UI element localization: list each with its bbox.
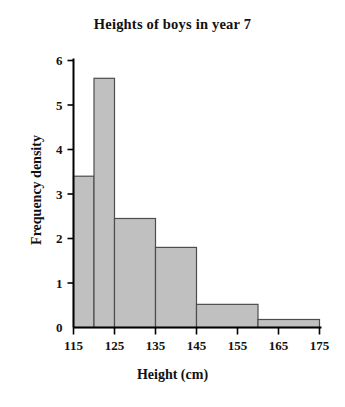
histogram-bar [197,304,259,327]
x-tick-label: 145 [187,338,207,353]
histogram-bar [115,218,156,327]
y-tick-label: 3 [56,187,63,202]
histogram-figure: Heights of boys in year 7 Frequency dens… [0,0,345,407]
x-tick-label: 135 [146,338,166,353]
histogram-bar [74,176,95,327]
x-tick-label: 175 [310,338,330,353]
histogram-bar [94,78,115,327]
y-tick-label: 4 [56,142,63,157]
x-ticks-group: 115125135145155165175 [64,328,330,353]
y-tick-label: 5 [56,98,63,113]
y-tick-label: 0 [56,320,63,335]
plot-area: 0123456 115125135145155165175 [0,0,345,407]
y-tick-label: 6 [56,53,63,68]
x-tick-label: 115 [64,338,83,353]
histogram-bar [258,319,320,327]
histogram-bar [156,247,197,327]
x-tick-label: 165 [269,338,289,353]
y-ticks-group: 0123456 [56,53,74,335]
bars-group [74,78,320,327]
x-tick-label: 155 [228,338,248,353]
x-tick-label: 125 [105,338,125,353]
y-tick-label: 1 [56,276,63,291]
y-tick-label: 2 [56,231,63,246]
